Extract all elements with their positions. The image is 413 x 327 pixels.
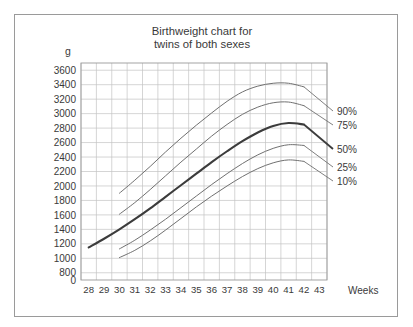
y-tick-label: 800: [59, 267, 76, 278]
percentile-label-90pct: 90%: [337, 106, 357, 117]
y-tick-label: 3600: [54, 65, 77, 76]
percentile-curve-labels: 90%75%50%25%10%: [337, 106, 357, 187]
x-tick-label: 41: [283, 284, 294, 295]
birthweight-percentile-chart: Birthweight chart for twins of both sexe…: [15, 15, 397, 316]
x-tick-label: 36: [206, 284, 217, 295]
x-tick-label: 39: [252, 284, 263, 295]
x-tick-label: 33: [160, 284, 171, 295]
percentile-curve-10pct: [119, 160, 304, 258]
y-tick-label: 3000: [54, 108, 77, 119]
percentile-label-50pct: 50%: [337, 144, 357, 155]
y-tick-label: 2400: [54, 152, 77, 163]
x-tick-label: 37: [222, 284, 233, 295]
x-tick-label: 35: [191, 284, 202, 295]
figure-container: Birthweight chart for twins of both sexe…: [0, 0, 413, 327]
percentile-leader-line: [304, 145, 333, 167]
y-tick-label: 2800: [54, 123, 77, 134]
x-axis-tick-labels: 28293031323334353637383940414243: [83, 284, 324, 295]
y-tick-label: 3200: [54, 94, 77, 105]
percentile-label-75pct: 75%: [337, 120, 357, 131]
x-tick-label: 34: [176, 284, 187, 295]
grid-lines: [81, 63, 327, 280]
y-tick-label: 1000: [54, 253, 77, 264]
y-tick-label: 2200: [54, 166, 77, 177]
percentile-curve-25pct: [119, 145, 304, 249]
y-tick-label: 1200: [54, 238, 77, 249]
x-tick-label: 40: [268, 284, 279, 295]
y-tick-label: 2600: [54, 137, 77, 148]
x-tick-label: 43: [314, 284, 325, 295]
x-tick-label: 42: [299, 284, 310, 295]
x-tick-label: 38: [237, 284, 248, 295]
x-tick-label: 31: [129, 284, 140, 295]
percentile-leader-line: [304, 106, 333, 125]
x-axis-name-label: Weeks: [348, 285, 378, 296]
x-tick-label: 32: [145, 284, 156, 295]
percentile-label-25pct: 25%: [337, 162, 357, 173]
chart-title-line-1: Birthweight chart for: [152, 25, 253, 37]
percentile-curve-50pct: [89, 123, 304, 247]
chart-title-group: Birthweight chart for twins of both sexe…: [152, 25, 253, 50]
y-tick-label: 1400: [54, 224, 77, 235]
y-axis-tick-labels: 0800100012001400160018002000220024002600…: [54, 65, 77, 286]
x-tick-label: 29: [99, 284, 110, 295]
percentile-label-10pct: 10%: [337, 176, 357, 187]
y-tick-label: 1600: [54, 210, 77, 221]
y-axis-unit-label: g: [65, 45, 71, 57]
figure-border-frame: Birthweight chart for twins of both sexe…: [14, 14, 398, 317]
x-tick-label: 28: [83, 284, 94, 295]
y-tick-label: 1800: [54, 195, 77, 206]
y-tick-label: 2000: [54, 181, 77, 192]
y-tick-label: 3400: [54, 79, 77, 90]
x-tick-label: 30: [114, 284, 125, 295]
percentile-curve-75pct: [119, 102, 304, 214]
chart-title-line-2: twins of both sexes: [154, 38, 250, 50]
